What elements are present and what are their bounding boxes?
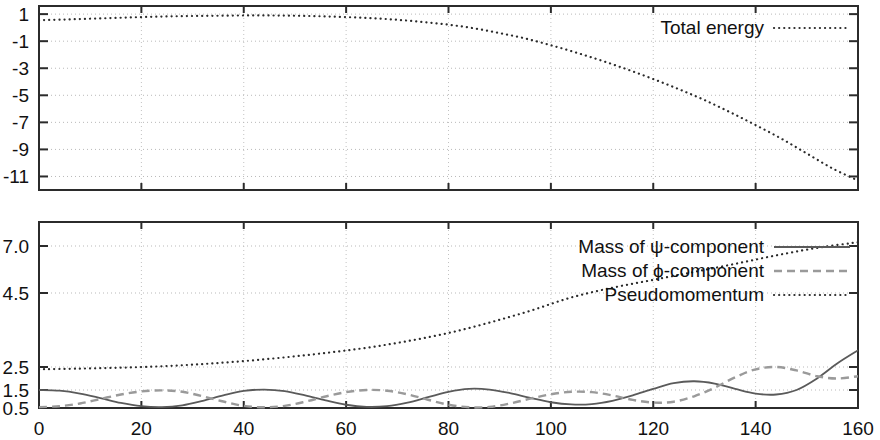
legend: Mass of ψ-componentMass of ϕ-componentPs…: [578, 236, 850, 305]
x-axis-tick-label: 100: [535, 418, 567, 439]
legend-label: Total energy: [660, 17, 764, 38]
y-axis-tick-label: -9: [12, 139, 29, 160]
figure-canvas: 1-1-3-5-7-9-11Total energy 0.51.52.54.57…: [0, 0, 880, 440]
y-axis-tick-label: 1.5: [3, 380, 29, 401]
chart-panel-mass-pseudomomentum: 0.51.52.54.57.0020406080100120140160Mass…: [0, 215, 880, 440]
y-axis-tick-label: -3: [12, 58, 29, 79]
x-axis-tick-label: 20: [131, 418, 152, 439]
x-axis-tick-label: 80: [438, 418, 459, 439]
y-axis-tick-label: 2.5: [3, 357, 29, 378]
y-axis-tick-label: -5: [12, 85, 29, 106]
y-axis-tick-label: 7.0: [3, 236, 29, 257]
legend-label: Mass of ϕ-component: [581, 260, 764, 281]
x-axis-tick-label: 140: [740, 418, 772, 439]
total-energy-plot: 1-1-3-5-7-9-11Total energy: [0, 0, 880, 215]
data-series-line: [39, 15, 858, 180]
mass-pseudomomentum-plot: 0.51.52.54.57.0020406080100120140160Mass…: [0, 215, 880, 440]
y-axis-tick-label: 0.5: [3, 398, 29, 419]
x-axis-tick-label: 40: [233, 418, 254, 439]
legend-label: Mass of ψ-component: [578, 236, 764, 257]
legend-label: Pseudomomentum: [605, 284, 764, 305]
x-axis-tick-label: 0: [34, 418, 45, 439]
x-axis-tick-label: 60: [336, 418, 357, 439]
x-axis-tick-label: 160: [842, 418, 874, 439]
legend: Total energy: [660, 17, 850, 38]
y-axis-tick-label: 4.5: [3, 283, 29, 304]
y-axis-tick-label: 1: [18, 4, 29, 25]
y-axis-tick-label: -7: [12, 112, 29, 133]
y-axis-tick-label: -11: [3, 166, 29, 187]
y-axis-tick-label: -1: [12, 31, 29, 52]
chart-panel-total-energy: 1-1-3-5-7-9-11Total energy: [0, 0, 880, 215]
x-axis-tick-label: 120: [637, 418, 669, 439]
